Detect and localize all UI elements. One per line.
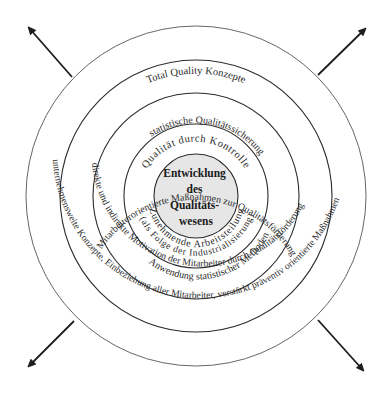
arrow-up-left: [30, 29, 72, 77]
arrow-down-right: [318, 320, 362, 369]
ring-4-top-label: Total Quality Konzepte: [145, 65, 248, 86]
quality-evolution-diagram: Total Quality Konzepte unternehmensweite…: [0, 0, 389, 393]
arrow-down-left: [30, 321, 74, 365]
arrow-up-right: [318, 30, 364, 75]
